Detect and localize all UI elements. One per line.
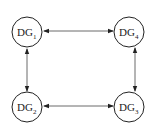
node-dg2-label: DG xyxy=(17,101,33,113)
node-dg2: DG2 xyxy=(12,92,42,122)
node-dg1: DG1 xyxy=(12,17,42,47)
node-dg1-subscript: 1 xyxy=(33,33,37,41)
node-dg3: DG3 xyxy=(114,92,144,122)
dg-network-diagram: DG1 DG4 DG2 DG3 xyxy=(0,0,155,133)
node-dg4-subscript: 4 xyxy=(135,33,139,41)
node-dg3-subscript: 3 xyxy=(135,108,139,116)
node-dg1-label: DG xyxy=(17,26,33,38)
node-dg2-subscript: 2 xyxy=(33,108,37,116)
node-dg4-label: DG xyxy=(119,26,135,38)
node-dg4: DG4 xyxy=(114,17,144,47)
node-dg3-label: DG xyxy=(119,101,135,113)
